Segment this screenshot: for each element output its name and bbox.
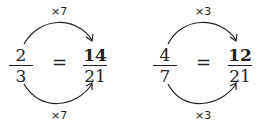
denominator: 3 [9, 67, 33, 85]
numerator: 14 [83, 46, 107, 64]
top-multiplier-label: ×7 [51, 5, 67, 18]
equals-sign: = [196, 54, 211, 72]
right-fraction: 12 21 [228, 46, 252, 85]
bottom-multiplier-label: ×3 [195, 109, 211, 122]
example-1: ×7 ×7 2 3 = 14 21 [0, 0, 130, 127]
denominator: 21 [228, 67, 252, 85]
denominator: 21 [83, 67, 107, 85]
equals-sign: = [52, 54, 67, 72]
denominator: 7 [153, 67, 177, 85]
left-fraction: 4 7 [153, 46, 177, 85]
left-fraction: 2 3 [9, 46, 33, 85]
example-2: ×3 ×3 4 7 = 12 21 [130, 0, 260, 127]
numerator: 12 [228, 46, 252, 64]
top-multiplier-label: ×3 [195, 5, 211, 18]
right-fraction: 14 21 [83, 46, 107, 85]
numerator: 4 [153, 46, 177, 64]
numerator: 2 [9, 46, 33, 64]
bottom-multiplier-label: ×7 [51, 109, 67, 122]
